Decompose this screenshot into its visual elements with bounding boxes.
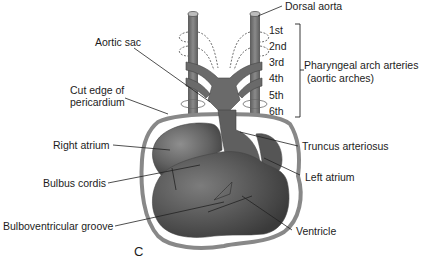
arch-label-3: 3rd	[269, 56, 284, 68]
arch-label-6: 6th	[269, 105, 284, 117]
label-dorsal-aorta: Dorsal aorta	[285, 0, 342, 12]
arch-label-1: 1st	[269, 24, 283, 36]
label-pharyngeal-line1: Pharyngeal arch arteries	[304, 59, 418, 71]
label-pharyngeal-line2: (aortic arches)	[307, 72, 374, 84]
label-ventricle: Ventricle	[296, 225, 336, 237]
arches-bracket	[295, 24, 304, 117]
label-bulboventricular-groove: Bulboventricular groove	[3, 220, 113, 232]
arch-label-2: 2nd	[269, 40, 287, 52]
label-left-atrium: Left atrium	[305, 171, 355, 183]
label-aortic-sac: Aortic sac	[95, 36, 141, 48]
label-cut-edge-line2: pericardium	[70, 96, 125, 108]
arch-label-4: 4th	[269, 72, 284, 84]
label-truncus-arteriosus: Truncus arteriosus	[302, 140, 389, 152]
label-right-atrium: Right atrium	[53, 139, 110, 151]
label-bulbus-cordis: Bulbus cordis	[43, 177, 106, 189]
label-cut-edge-line1: Cut edge of	[70, 84, 124, 96]
panel-letter: C	[134, 244, 143, 259]
arch-label-5: 5th	[269, 89, 284, 101]
